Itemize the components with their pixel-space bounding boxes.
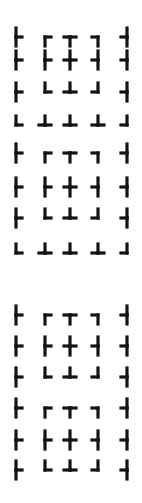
- corner-top-right-icon: ┐: [87, 304, 109, 326]
- tee-left-icon: ┤: [116, 49, 138, 71]
- tee-right-icon: ├: [5, 366, 27, 388]
- tee-up-icon: ┴: [59, 459, 81, 481]
- corner-bottom-left-icon: └: [34, 459, 56, 481]
- cross-icon: ┼: [59, 176, 81, 198]
- tee-left-icon: ┤: [87, 176, 109, 198]
- tee-down-icon: ┬: [59, 142, 81, 164]
- corner-top-left-icon: ┌: [34, 142, 56, 164]
- tee-right-icon: ├: [34, 176, 56, 198]
- tee-up-icon: ┴: [59, 207, 81, 229]
- corner-bottom-left-icon: └: [34, 207, 56, 229]
- tee-left-icon: ┤: [116, 176, 138, 198]
- tee-right-icon: ├: [5, 397, 27, 419]
- tee-left-icon: ┤: [116, 304, 138, 326]
- tee-right-icon: ├: [5, 49, 27, 71]
- tee-left-icon: ┤: [87, 335, 109, 357]
- tee-right-icon: ├: [34, 429, 56, 451]
- corner-bottom-left-icon: └: [34, 366, 56, 388]
- corner-bottom-right-icon: ┘: [116, 113, 138, 127]
- tee-left-icon: ┤: [116, 429, 138, 451]
- tee-right-icon: ├: [5, 459, 27, 481]
- tee-left-icon: ┤: [116, 81, 138, 103]
- corner-bottom-right-icon: ┘: [87, 207, 109, 229]
- tee-left-icon: ┤: [116, 207, 138, 229]
- tee-up-icon: ┴: [59, 81, 81, 103]
- tee-right-icon: ├: [5, 429, 27, 451]
- tee-left-icon: ┤: [116, 335, 138, 357]
- tee-left-icon: ┤: [116, 459, 138, 481]
- tee-right-icon: ├: [5, 81, 27, 103]
- tee-left-icon: ┤: [116, 366, 138, 388]
- tee-right-icon: ├: [5, 304, 27, 326]
- tee-up-icon: ┴: [34, 241, 56, 255]
- tee-up-icon: ┴: [59, 366, 81, 388]
- corner-bottom-left-icon: └: [5, 113, 27, 127]
- tee-right-icon: ├: [5, 26, 27, 48]
- tee-up-icon: ┴: [87, 113, 109, 127]
- corner-bottom-right-icon: ┘: [87, 459, 109, 481]
- corner-top-right-icon: ┐: [87, 26, 109, 48]
- corner-bottom-left-icon: └: [5, 241, 27, 255]
- tee-up-icon: ┴: [34, 113, 56, 127]
- tee-up-icon: ┴: [59, 241, 81, 255]
- corner-top-left-icon: ┌: [34, 26, 56, 48]
- tee-left-icon: ┤: [116, 26, 138, 48]
- tee-right-icon: ├: [34, 49, 56, 71]
- tee-down-icon: ┬: [59, 397, 81, 419]
- tee-down-icon: ┬: [59, 304, 81, 326]
- corner-bottom-right-icon: ┘: [87, 81, 109, 103]
- tee-up-icon: ┴: [59, 113, 81, 127]
- tee-left-icon: ┤: [116, 397, 138, 419]
- tee-up-icon: ┴: [87, 241, 109, 255]
- corner-top-right-icon: ┐: [87, 142, 109, 164]
- cross-icon: ┼: [59, 429, 81, 451]
- cross-icon: ┼: [59, 335, 81, 357]
- tee-left-icon: ┤: [116, 142, 138, 164]
- cross-icon: ┼: [59, 49, 81, 71]
- tee-down-icon: ┬: [59, 26, 81, 48]
- tee-right-icon: ├: [34, 335, 56, 357]
- corner-bottom-left-icon: └: [34, 81, 56, 103]
- tee-right-icon: ├: [5, 176, 27, 198]
- corner-bottom-right-icon: ┘: [116, 241, 138, 255]
- corner-top-right-icon: ┐: [87, 397, 109, 419]
- glyph-sheet: ├┌┬┐┤├├┼┤┤├└┴┘┤└┴┴┴┘├┌┬┐┤├├┼┤┤├└┴┘┤└┴┴┴┘…: [0, 0, 142, 503]
- tee-left-icon: ┤: [87, 429, 109, 451]
- corner-top-left-icon: ┌: [34, 397, 56, 419]
- corner-bottom-right-icon: ┘: [87, 366, 109, 388]
- corner-top-left-icon: ┌: [34, 304, 56, 326]
- tee-left-icon: ┤: [87, 49, 109, 71]
- tee-right-icon: ├: [5, 335, 27, 357]
- tee-right-icon: ├: [5, 142, 27, 164]
- tee-right-icon: ├: [5, 207, 27, 229]
